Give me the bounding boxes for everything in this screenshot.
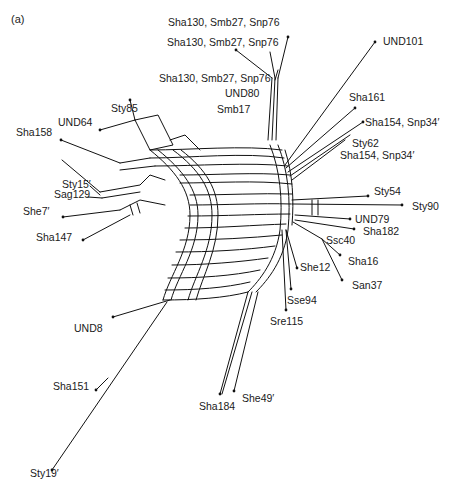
taxon-label: Sty19′ [30, 468, 59, 479]
taxon-label: Sha130, Smb27, Snp76 [167, 37, 279, 48]
taxon-label: Sha147 [36, 232, 72, 243]
taxon-label: She12 [300, 262, 330, 273]
taxon-label: Sha154, Snp34′ [340, 150, 414, 161]
taxon-label: Sha130, Smb27, Snp76 [159, 73, 271, 84]
taxon-label: Sty54 [374, 186, 401, 197]
taxon-label: Sha184 [199, 401, 235, 412]
taxon-label: She49′ [242, 393, 274, 404]
taxon-label: Sty90 [412, 201, 439, 212]
taxon-label: Sha182 [363, 226, 399, 237]
taxon-label: UND80 [225, 88, 259, 99]
taxon-label: Ssc40 [326, 235, 355, 246]
taxon-label: Sre115 [270, 316, 303, 327]
taxon-label: Sha130, Smb27, Snp76 [168, 17, 280, 28]
taxon-label: UND8 [74, 323, 103, 334]
taxon-label: UND101 [383, 36, 423, 47]
taxon-label: San37 [352, 280, 382, 291]
taxon-label: Sha161 [349, 92, 385, 103]
taxon-label: Sty62 [352, 138, 379, 149]
taxon-label: Sag129 [54, 189, 90, 200]
taxon-label: UND64 [58, 117, 92, 128]
taxon-label: Sha158 [16, 127, 52, 138]
taxon-label: Sty85 [111, 103, 138, 114]
taxon-label: UND79 [355, 214, 389, 225]
taxon-label: Smb17 [217, 104, 250, 115]
taxon-label: Sha151 [53, 381, 89, 392]
taxon-label: She7′ [23, 206, 50, 217]
taxon-label: Sha16 [348, 256, 378, 267]
panel-label: (a) [11, 13, 24, 25]
taxon-label: Sha154, Snp34′ [365, 117, 439, 128]
taxon-label: Sse94 [287, 295, 317, 306]
